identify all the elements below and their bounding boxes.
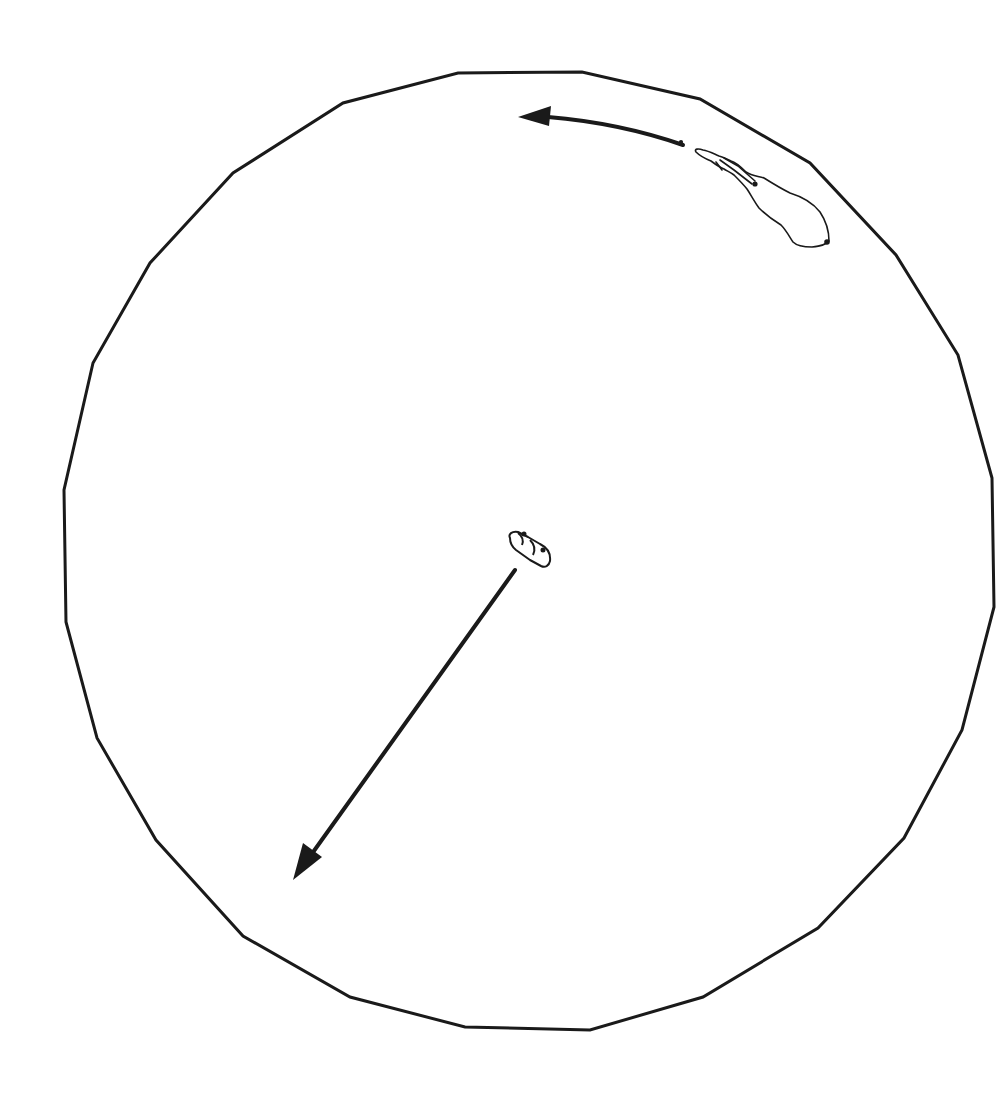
straight-arrow — [293, 570, 515, 880]
arena-diagram — [0, 0, 1005, 1104]
animal-outline — [680, 141, 829, 247]
center-object — [509, 532, 550, 567]
curved-arrow — [518, 106, 683, 145]
arena-wall — [64, 72, 994, 1030]
